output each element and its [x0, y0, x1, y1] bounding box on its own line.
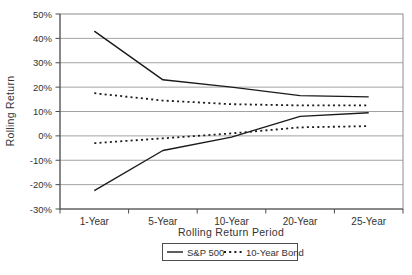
- y-tick-label: -30%: [30, 204, 53, 215]
- x-category-label: 25-Year: [351, 216, 386, 227]
- y-tick-label: 20%: [33, 82, 53, 93]
- y-tick-label: 40%: [33, 33, 53, 44]
- series-lines: [94, 31, 368, 191]
- y-tick-label: -10%: [30, 155, 53, 166]
- axis-tick-labels: 50%40%30%20%10%0%-10%-20%-30%1-Year5-Yea…: [30, 9, 387, 228]
- y-tick-label: -20%: [30, 179, 53, 190]
- x-category-label: 20-Year: [283, 216, 318, 227]
- rolling-return-chart: 50%40%30%20%10%0%-10%-20%-30%1-Year5-Yea…: [0, 0, 412, 275]
- y-tick-label: 10%: [33, 106, 53, 117]
- legend-sp500-label: S&P 500: [187, 247, 224, 258]
- legend-bond-label: 10-Year Bond: [246, 247, 304, 258]
- x-category-label: 5-Year: [148, 216, 178, 227]
- series-bond10y-low-line: [94, 126, 368, 143]
- y-axis-title: Rolling Return: [4, 76, 16, 147]
- x-category-label: 1-Year: [80, 216, 110, 227]
- legend: S&P 500 10-Year Bond: [163, 244, 304, 261]
- series-sp500-low-line: [94, 113, 368, 191]
- series-bond10y-high-line: [94, 93, 368, 105]
- y-tick-label: 30%: [33, 57, 53, 68]
- y-tick-label: 0%: [38, 130, 52, 141]
- chart-svg: 50%40%30%20%10%0%-10%-20%-30%1-Year5-Yea…: [0, 0, 412, 275]
- y-tick-label: 50%: [33, 9, 53, 20]
- x-axis-title: Rolling Return Period: [178, 226, 284, 238]
